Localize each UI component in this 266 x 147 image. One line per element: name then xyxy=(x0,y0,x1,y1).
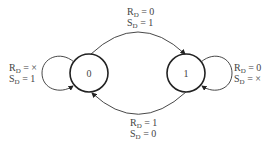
condition-sd: SD = 1 xyxy=(9,73,37,84)
condition-sd: SD = 1 xyxy=(127,17,154,28)
condition-rd: RD = 0 xyxy=(127,6,154,17)
state-1-label: 1 xyxy=(184,68,189,79)
transition-1-to-0-label: RD = 1 SD = 0 xyxy=(130,117,157,139)
self-loop-1-label: RD = 0 SD = × xyxy=(234,62,261,84)
condition-sd: SD = 0 xyxy=(130,128,157,139)
self-loop-0-arrow xyxy=(42,56,74,90)
condition-sd: SD = × xyxy=(234,73,261,84)
transition-0-to-1-arrow xyxy=(91,32,185,54)
state-0-label: 0 xyxy=(87,68,92,79)
condition-rd: RD = 1 xyxy=(130,117,157,128)
condition-rd: RD = × xyxy=(9,62,37,73)
self-loop-0-label: RD = × SD = 1 xyxy=(9,62,37,84)
condition-rd: RD = 0 xyxy=(234,62,261,73)
transition-1-to-0-arrow xyxy=(92,92,186,114)
transition-0-to-1-label: RD = 0 SD = 1 xyxy=(127,6,154,28)
